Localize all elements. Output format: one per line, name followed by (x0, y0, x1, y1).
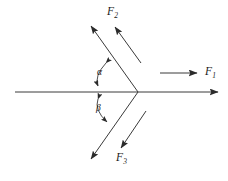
force-f3-parallel-line (121, 111, 146, 148)
force-f1-label-base: F (205, 65, 212, 77)
force-f1-label-subscript: 1 (212, 71, 216, 80)
angle-alpha-label: α (97, 68, 102, 78)
force-f2-label: F2 (107, 6, 118, 18)
force-f2-ray (91, 26, 138, 92)
force-f3-label: F3 (116, 152, 127, 164)
force-diagram-canvas (0, 0, 228, 181)
force-f3-label-subscript: 3 (123, 157, 127, 166)
force-f1-label: F1 (205, 66, 216, 78)
angle-beta-label: β (96, 104, 101, 114)
force-f2-label-base: F (107, 5, 114, 17)
force-f3-label-base: F (116, 151, 123, 163)
force-f2-parallel-line (115, 27, 141, 63)
force-diagram-figure: F1 F2 F3 α β (0, 0, 228, 181)
force-f2-label-subscript: 2 (114, 11, 118, 20)
